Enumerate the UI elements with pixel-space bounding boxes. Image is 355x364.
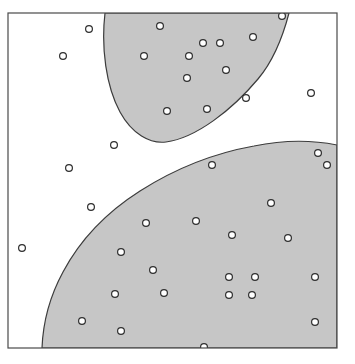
data-point — [161, 290, 168, 297]
data-point — [88, 204, 95, 211]
data-point — [279, 13, 286, 20]
data-point — [226, 274, 233, 281]
data-point — [118, 328, 125, 335]
data-point — [19, 245, 26, 252]
data-point — [308, 90, 315, 97]
data-point — [66, 165, 73, 172]
data-point — [186, 53, 193, 60]
data-point — [312, 319, 319, 326]
data-point — [184, 75, 191, 82]
data-point — [86, 26, 93, 33]
data-point — [226, 292, 233, 299]
data-point — [150, 267, 157, 274]
data-point — [143, 220, 150, 227]
data-point — [312, 274, 319, 281]
data-point — [249, 292, 256, 299]
data-point — [204, 106, 211, 113]
data-point — [79, 318, 86, 325]
data-point — [60, 53, 67, 60]
data-point — [111, 142, 118, 149]
data-point — [217, 40, 224, 47]
data-point — [118, 249, 125, 256]
data-point — [252, 274, 259, 281]
data-point — [250, 34, 257, 41]
data-point — [209, 162, 216, 169]
data-point — [229, 232, 236, 239]
data-point — [141, 53, 148, 60]
data-point — [223, 67, 230, 74]
data-point — [268, 200, 275, 207]
data-point — [324, 162, 331, 169]
scatter-plot-svg — [0, 0, 355, 364]
data-point — [164, 108, 171, 115]
data-point — [157, 23, 164, 30]
data-point — [315, 150, 322, 157]
data-point — [112, 291, 119, 298]
data-point — [193, 218, 200, 225]
data-point — [243, 95, 250, 102]
data-point — [201, 344, 208, 351]
figure-container — [0, 0, 355, 364]
data-point — [200, 40, 207, 47]
data-point — [285, 235, 292, 242]
